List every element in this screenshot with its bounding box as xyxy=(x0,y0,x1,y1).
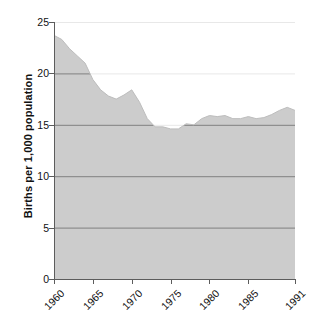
x-tick-mark xyxy=(93,279,94,284)
x-tick-mark xyxy=(171,279,172,284)
x-tick-mark xyxy=(295,279,296,284)
x-tick-mark xyxy=(54,279,55,284)
x-tick-label: 1991 xyxy=(254,287,308,332)
x-axis-ticks: 1960196519701975198019851991 xyxy=(0,0,313,332)
chart-figure: Births per 1,000 population 0510152025 1… xyxy=(0,0,313,332)
x-tick-mark xyxy=(248,279,249,284)
x-tick-mark xyxy=(132,279,133,284)
x-tick-mark xyxy=(209,279,210,284)
